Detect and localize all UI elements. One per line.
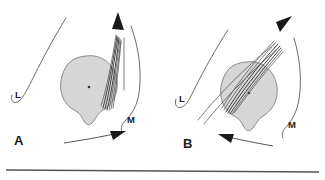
panel-a-letter: A bbox=[14, 133, 24, 148]
panel-b-letter: B bbox=[183, 136, 192, 151]
panel-a-spindle-arrow bbox=[112, 12, 124, 30]
figure-container: L M bbox=[0, 0, 325, 180]
panel-b: L M bbox=[175, 16, 300, 151]
figure-svg: L M bbox=[0, 0, 325, 180]
panel-a-center-dot bbox=[88, 86, 91, 89]
panel-a-medial-label: M bbox=[127, 114, 135, 125]
panel-a: L M bbox=[11, 12, 140, 148]
panel-b-medial-label: M bbox=[288, 119, 296, 130]
panel-a-lateral-label: L bbox=[15, 89, 21, 100]
panel-b-spindle-arrow bbox=[276, 16, 292, 32]
bottom-rule bbox=[6, 170, 319, 172]
panel-b-lateral-label: L bbox=[179, 93, 185, 104]
panel-a-motion-arrow bbox=[64, 131, 126, 143]
panel-b-motion-arrow bbox=[218, 134, 273, 146]
